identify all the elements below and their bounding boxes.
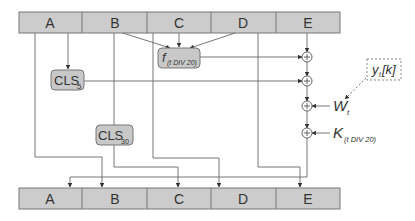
bottom-register-b: B <box>110 191 119 207</box>
top-register-b: B <box>110 15 119 31</box>
svg-text:t: t <box>347 108 350 117</box>
w-input-label: W t <box>333 97 350 117</box>
bottom-register-c: C <box>174 191 184 207</box>
bottom-register-bar: A B C D E <box>19 188 340 209</box>
adder-3-icon <box>302 101 312 111</box>
function-subscript: (t DIV 20) <box>167 59 197 67</box>
svg-text:(t DIV 20): (t DIV 20) <box>344 135 377 144</box>
sha1-round-diagram: A B C D E A B C D E <box>0 0 415 221</box>
adder-4-icon <box>302 128 312 138</box>
message-index: [k] <box>381 62 396 77</box>
top-register-c: C <box>174 15 184 31</box>
top-register-e: E <box>303 15 312 31</box>
cls30-box: CLS 30 <box>96 125 133 145</box>
cls5-subscript: 5 <box>77 82 82 91</box>
k-input-label: K (t DIV 20) <box>333 124 377 144</box>
bottom-register-d: D <box>238 191 248 207</box>
message-word-box: y t [k] <box>367 59 401 80</box>
adder-1-icon <box>302 52 312 62</box>
cls30-subscript: 30 <box>121 138 129 145</box>
function-box: f (t DIV 20) <box>158 48 200 68</box>
cls5-label: CLS <box>54 73 80 88</box>
adder-2-icon <box>302 76 312 86</box>
top-register-a: A <box>45 15 55 31</box>
svg-text:K: K <box>333 124 344 141</box>
bottom-register-a: A <box>45 191 55 207</box>
top-register-bar: A B C D E <box>19 12 340 33</box>
top-register-d: D <box>238 15 248 31</box>
bottom-register-e: E <box>303 191 312 207</box>
cls5-box: CLS 5 <box>51 70 84 91</box>
cls30-label: CLS <box>98 128 124 143</box>
